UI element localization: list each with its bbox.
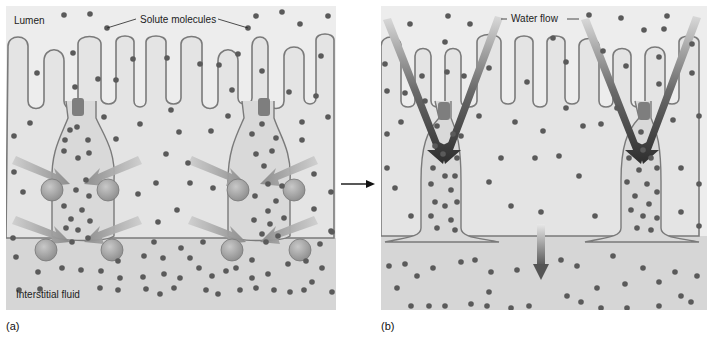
label-lumen: Lumen <box>14 15 45 26</box>
panel-a-diagram <box>6 6 336 310</box>
tight-junction <box>438 102 450 120</box>
panel-b: Water flow <box>381 6 707 310</box>
panel-a-letter: (a) <box>6 320 19 332</box>
tight-junction <box>638 102 650 120</box>
panel-b-diagram <box>381 6 707 310</box>
tight-junction <box>72 98 84 116</box>
label-solute-molecules: Solute molecules <box>140 14 216 25</box>
label-water-flow: Water flow <box>511 13 558 24</box>
panel-a: Lumen Solute molecules Interstitial flui… <box>6 6 336 310</box>
label-interstitial-fluid: Interstitial fluid <box>16 289 80 300</box>
transition-arrow-icon <box>340 178 376 190</box>
panel-b-letter: (b) <box>381 320 394 332</box>
downward-flow-arrow <box>537 224 545 266</box>
tight-junction <box>258 98 270 116</box>
